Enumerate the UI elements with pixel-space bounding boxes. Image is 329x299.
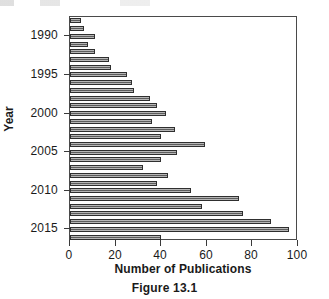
- bar: [70, 134, 161, 139]
- bar: [70, 211, 243, 216]
- plot-area: [69, 16, 297, 240]
- bar: [70, 157, 161, 162]
- bar: [70, 196, 239, 201]
- bar: [70, 188, 191, 193]
- y-axis-tick: [64, 113, 70, 114]
- y-axis-tick-label: 2015: [22, 221, 58, 235]
- figure-13-1: Year 19901995200020052010201502040608010…: [0, 0, 329, 299]
- x-axis-tick-label: 20: [95, 248, 135, 262]
- y-axis-tick-label: 2000: [22, 106, 58, 120]
- y-axis-title: Year: [2, 89, 16, 149]
- bar: [70, 80, 132, 85]
- bar: [70, 65, 111, 70]
- y-axis-tick-label: 2005: [22, 144, 58, 158]
- bar: [70, 181, 157, 186]
- x-axis-tick: [160, 240, 161, 246]
- y-axis-tick: [64, 74, 70, 75]
- x-axis-tick-label: 100: [277, 248, 317, 262]
- x-axis-title: Number of Publications: [69, 262, 297, 276]
- bar: [70, 142, 205, 147]
- y-axis-tick-label: 2010: [22, 183, 58, 197]
- x-axis-tick-label: 60: [186, 248, 226, 262]
- bar: [70, 26, 84, 31]
- bar: [70, 227, 289, 232]
- x-axis-tick: [251, 240, 252, 246]
- bar: [70, 173, 168, 178]
- y-axis-tick: [64, 228, 70, 229]
- x-axis-tick-label: 80: [231, 248, 271, 262]
- bar: [70, 49, 95, 54]
- figure-caption: Figure 13.1: [0, 281, 329, 295]
- bar: [70, 96, 150, 101]
- y-axis-tick: [64, 151, 70, 152]
- bar: [70, 18, 81, 23]
- bar: [70, 119, 152, 124]
- bar: [70, 111, 166, 116]
- bar: [70, 219, 271, 224]
- bar: [70, 57, 109, 62]
- bar: [70, 165, 143, 170]
- bar: [70, 88, 134, 93]
- bar: [70, 235, 161, 240]
- bar: [70, 150, 177, 155]
- x-axis-tick: [297, 240, 298, 246]
- x-axis-tick: [115, 240, 116, 246]
- bar: [70, 34, 95, 39]
- bar: [70, 204, 202, 209]
- bar: [70, 42, 88, 47]
- x-axis-tick: [206, 240, 207, 246]
- bar: [70, 103, 157, 108]
- y-axis-tick: [64, 35, 70, 36]
- x-axis-tick-label: 0: [49, 248, 89, 262]
- x-axis-tick-label: 40: [140, 248, 180, 262]
- bar: [70, 127, 175, 132]
- y-axis-tick: [64, 190, 70, 191]
- x-axis-tick: [69, 240, 70, 246]
- y-axis-tick-label: 1995: [22, 67, 58, 81]
- bar: [70, 72, 127, 77]
- bars-layer: [70, 17, 296, 239]
- y-axis-tick-label: 1990: [22, 28, 58, 42]
